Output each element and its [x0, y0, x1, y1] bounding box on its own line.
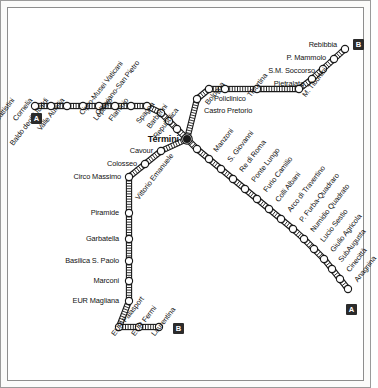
station-label-policlinico: Policlinico	[214, 95, 246, 102]
station-circle	[229, 175, 236, 182]
station-label-pietralata: Pietralata	[274, 80, 304, 87]
station-circle	[336, 275, 343, 282]
station-circle	[341, 45, 348, 52]
station-circle	[320, 255, 327, 262]
station-manzoni[interactable]	[205, 155, 212, 162]
station-circle	[241, 185, 248, 192]
station-label-circo-massimo: Circo Massimo	[73, 173, 121, 180]
station-circle	[125, 277, 132, 284]
station-circle	[125, 209, 132, 216]
station-circle	[217, 165, 224, 172]
station-ponte-lungo[interactable]	[241, 185, 248, 192]
station-lucio-sestio[interactable]	[310, 245, 317, 252]
station-label-eur-magliana: EUR Magliana	[73, 297, 119, 304]
station-cavour[interactable]	[157, 147, 164, 154]
station-vittorio-emanuele[interactable]	[193, 145, 200, 152]
station-circle	[253, 195, 260, 202]
station-label-garbatella: Garbatella	[86, 235, 119, 242]
station-subaugusta[interactable]	[328, 265, 335, 272]
station-circle	[265, 205, 272, 212]
station-rebibbia[interactable]	[341, 45, 348, 52]
station-label-p-mammolo: P. Mammolo	[286, 54, 326, 61]
station-termini[interactable]	[182, 134, 192, 144]
station-numidio-quadrato[interactable]	[300, 235, 307, 242]
station-label-cavour: Cavour	[130, 147, 153, 154]
station-marconi[interactable]	[125, 277, 132, 284]
station-circle	[300, 235, 307, 242]
station-label-rebibbia: Rebibbia	[309, 41, 337, 48]
station-circle	[193, 145, 200, 152]
station-label-colosseo: Colosseo	[107, 160, 137, 167]
badge-line-b-northeast[interactable]: B	[353, 39, 364, 50]
station-circle	[344, 285, 351, 292]
badge-line-a-west[interactable]: A	[31, 113, 42, 124]
station-label-marconi: Marconi	[93, 277, 119, 284]
station-circle	[157, 147, 164, 154]
station-label-piramide: Piramide	[91, 209, 119, 216]
station-circle	[330, 55, 337, 62]
station-circle	[328, 265, 335, 272]
station-furio-camilio[interactable]	[253, 195, 260, 202]
station-circo-massimo[interactable]	[125, 173, 132, 180]
station-circle	[277, 215, 284, 222]
station-s-giovanni[interactable]	[217, 165, 224, 172]
track-segment-line-b	[126, 177, 131, 213]
station-arco-di-travertino[interactable]	[277, 215, 284, 222]
station-circle	[125, 173, 132, 180]
station-giulio-agricola[interactable]	[320, 255, 327, 262]
station-re-di-roma[interactable]	[229, 175, 236, 182]
station-circle	[289, 225, 296, 232]
station-colosseo[interactable]	[141, 160, 148, 167]
station-anagnina[interactable]	[344, 285, 351, 292]
station-circle	[173, 125, 180, 132]
station-garbatella[interactable]	[125, 235, 132, 242]
station-label-s-m-soccorso: S.M. Soccorso	[268, 67, 315, 74]
station-repubblica[interactable]	[173, 125, 180, 132]
station-label-castro-pretorio: Castro Pretorio	[204, 107, 252, 114]
station-label-termini: Termini	[148, 135, 179, 144]
station-circle	[125, 257, 132, 264]
station-p-furba-quadraro[interactable]	[289, 225, 296, 232]
station-piramide[interactable]	[125, 209, 132, 216]
badge-line-b-south[interactable]: B	[173, 323, 184, 334]
station-p-mammolo[interactable]	[330, 55, 337, 62]
station-circle	[193, 95, 200, 102]
station-circle	[205, 155, 212, 162]
station-circle	[310, 245, 317, 252]
station-cinecitt-[interactable]	[336, 275, 343, 282]
station-label-basilica-s-paolo: Basilica S. Paolo	[65, 257, 119, 264]
station-circle	[125, 235, 132, 242]
badge-line-a-southeast[interactable]: A	[346, 304, 357, 315]
station-circle	[141, 160, 148, 167]
interchange-dot	[183, 135, 191, 143]
station-colli-albani[interactable]	[265, 205, 272, 212]
station-basilica-s-paolo[interactable]	[125, 257, 132, 264]
station-castro-pretorio[interactable]	[193, 95, 200, 102]
